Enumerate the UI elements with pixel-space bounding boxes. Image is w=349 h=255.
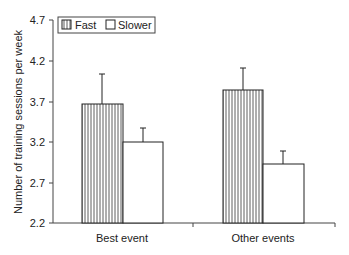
y-tick-label: 4.2	[30, 55, 45, 67]
bar-group-best-event	[82, 74, 163, 223]
y-tick-label: 3.2	[30, 136, 45, 148]
legend-swatch-fast	[62, 20, 71, 29]
x-category-label: Best event	[96, 232, 148, 244]
legend-label-fast: Fast	[75, 19, 96, 31]
y-axis	[49, 20, 53, 223]
y-tick-label: 3.7	[30, 96, 45, 108]
legend: Fast Slower	[58, 17, 155, 33]
x-category-label: Other events	[232, 232, 295, 244]
y-tick-label: 2.7	[30, 177, 45, 189]
legend-label-slower: Slower	[118, 19, 152, 31]
y-tick-label: 2.2	[30, 217, 45, 229]
legend-swatch-slower	[106, 20, 115, 29]
bar-group-other-events	[223, 68, 304, 223]
bar-slower	[263, 164, 304, 223]
bar-chart: Number of training sessions per week 4.7…	[0, 0, 349, 255]
bar-fast	[223, 90, 263, 223]
bar-fast	[82, 104, 123, 223]
x-axis	[53, 223, 335, 227]
y-tick-label: 4.7	[30, 14, 45, 26]
y-axis-label: Number of training sessions per week	[12, 29, 24, 214]
bar-slower	[123, 142, 163, 223]
